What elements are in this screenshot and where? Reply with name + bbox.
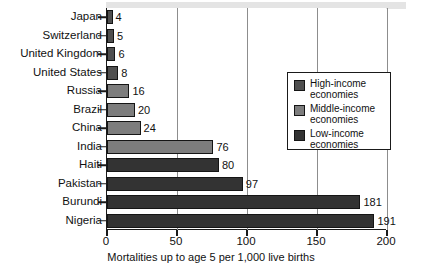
bar-row <box>107 214 387 228</box>
x-tick-label-0: 0 <box>103 236 109 248</box>
x-tick-label-100: 100 <box>236 236 255 248</box>
x-tick-label-150: 150 <box>306 236 325 248</box>
bar-russia <box>107 84 129 98</box>
bar-value-label: 6 <box>118 49 124 60</box>
bar-value-label: 24 <box>144 123 156 134</box>
category-label-nigeria: Nigeria <box>0 215 102 227</box>
bar-pakistan <box>107 177 243 191</box>
category-tick <box>98 165 106 167</box>
category-label-russia: Russia <box>0 86 102 98</box>
bar-burundi <box>107 195 360 209</box>
category-label-haiti: Haiti <box>0 160 102 172</box>
bar-row <box>107 47 387 61</box>
category-label-switzerland: Switzerland <box>0 30 102 42</box>
bar-value-label: 5 <box>117 30 123 41</box>
bar-value-label: 181 <box>363 197 381 208</box>
category-tick <box>98 54 106 56</box>
bar-india <box>107 140 213 154</box>
category-label-united-states: United States <box>0 67 102 79</box>
category-tick <box>98 72 106 74</box>
category-label-pakistan: Pakistan <box>0 178 102 190</box>
bar-value-label: 191 <box>377 215 395 226</box>
bar-value-label: 97 <box>246 178 258 189</box>
x-axis-title: Mortalities up to age 5 per 1,000 live b… <box>0 251 422 263</box>
bar-japan <box>107 10 113 24</box>
mortality-bar-chart: JapanSwitzerlandUnited KingdomUnited Sta… <box>0 0 422 267</box>
x-tick-label-200: 200 <box>376 236 395 248</box>
legend-item-2: Low-income economies <box>294 128 390 150</box>
category-tick <box>98 220 106 222</box>
category-label-japan: Japan <box>0 12 102 24</box>
bar-row <box>107 195 387 209</box>
legend-label: High-income economies <box>310 78 366 100</box>
category-label-united-kingdom: United Kingdom <box>0 49 102 61</box>
chart-legend: High-income economiesMiddle-income econo… <box>287 72 391 150</box>
legend-item-0: High-income economies <box>294 78 390 100</box>
category-tick <box>98 17 106 19</box>
category-label-brazil: Brazil <box>0 104 102 116</box>
legend-swatch-icon <box>294 80 305 91</box>
x-tick-label-50: 50 <box>170 236 183 248</box>
category-label-burundi: Burundi <box>0 197 102 209</box>
bar-united-states <box>107 66 118 80</box>
category-label-india: India <box>0 141 102 153</box>
category-tick <box>98 91 106 93</box>
legend-swatch-icon <box>294 130 305 141</box>
legend-label: Low-income economies <box>310 128 364 150</box>
bar-value-label: 76 <box>216 141 228 152</box>
category-tick <box>98 146 106 148</box>
category-tick <box>98 202 106 204</box>
category-label-china: China <box>0 123 102 135</box>
bar-china <box>107 121 141 135</box>
bar-value-label: 16 <box>132 86 144 97</box>
bar-brazil <box>107 103 135 117</box>
category-tick <box>98 183 106 185</box>
bar-value-label: 4 <box>116 12 122 23</box>
legend-swatch-icon <box>294 105 305 116</box>
bar-united-kingdom <box>107 47 115 61</box>
bar-row <box>107 10 387 24</box>
bar-nigeria <box>107 214 374 228</box>
bar-haiti <box>107 158 219 172</box>
legend-item-1: Middle-income economies <box>294 103 390 125</box>
category-tick <box>98 109 106 111</box>
bar-row <box>107 158 387 172</box>
bar-value-label: 20 <box>138 104 150 115</box>
bar-row <box>107 29 387 43</box>
bar-value-label: 80 <box>222 160 234 171</box>
category-tick <box>98 128 106 130</box>
category-tick <box>98 35 106 37</box>
bar-value-label: 8 <box>121 67 127 78</box>
legend-label: Middle-income economies <box>310 103 375 125</box>
bar-switzerland <box>107 29 114 43</box>
